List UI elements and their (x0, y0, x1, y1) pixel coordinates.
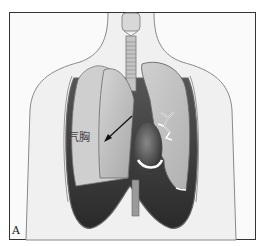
esophagus (132, 180, 139, 216)
right-lung-collapsed (72, 66, 134, 186)
heart (134, 122, 162, 174)
chest-illustration (0, 0, 262, 246)
pneumothorax-label: 气胸 (68, 128, 89, 144)
panel-label: A (12, 224, 20, 237)
